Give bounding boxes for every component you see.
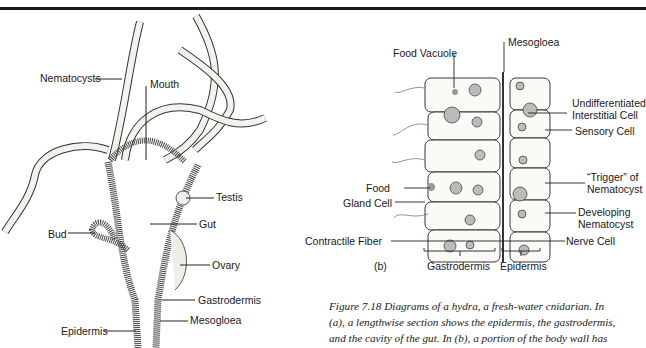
label-developing-nematocyst: Nematocyst (578, 218, 633, 230)
label-nerve-cell: Nerve Cell (566, 235, 615, 247)
caption-line-1: Figure 7.18 Diagrams of a hydra, a fresh… (329, 298, 646, 314)
panel-label-b: (b) (374, 260, 387, 272)
label-epidermis-a: Epidermis (61, 325, 108, 337)
label-trigger-nematocyst: Nematocyst (587, 183, 642, 195)
caption-line-2: (a), a lengthwise section shows the epid… (329, 314, 646, 330)
label-gastrodermis-b: Gastrodermis (427, 260, 490, 272)
label-trigger: “Trigger” of (587, 171, 639, 183)
label-nematocysts: Nematocysts (40, 72, 101, 84)
label-food-vacuole: Food Vacuole (393, 47, 457, 59)
label-bud: Bud (48, 228, 67, 240)
label-testis: Testis (216, 191, 243, 203)
figure-caption: Figure 7.18 Diagrams of a hydra, a fresh… (329, 298, 646, 346)
label-gastrodermis-a: Gastrodermis (198, 294, 261, 306)
label-food: Food (366, 182, 390, 194)
label-developing: Developing (578, 206, 631, 218)
label-ovary: Ovary (212, 259, 240, 271)
label-undifferentiated: Undifferentiated (572, 97, 646, 109)
caption-line-3: and the cavity of the gut. In (b), a por… (329, 330, 646, 346)
label-interstitial-cell: Interstitial Cell (572, 109, 638, 121)
label-mesogloea-a: Mesogloea (190, 314, 241, 326)
label-sensory-cell: Sensory Cell (575, 125, 635, 137)
label-contractile-fiber: Contractile Fiber (305, 235, 382, 247)
label-gland-cell: Gland Cell (343, 197, 392, 209)
label-mouth: Mouth (150, 78, 179, 90)
body-wall-diagram-b (0, 0, 646, 348)
label-mesogloea-b: Mesogloea (508, 36, 559, 48)
label-gut: Gut (199, 218, 216, 230)
label-epidermis-b: Epidermis (500, 260, 547, 272)
